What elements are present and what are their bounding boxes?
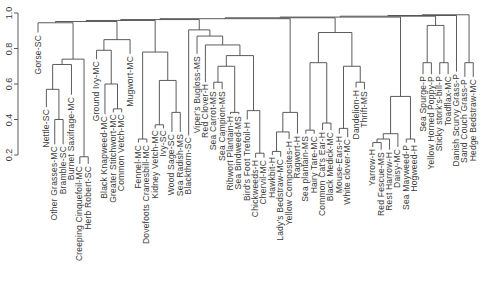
y-axis-tick-label: 0.2 (4, 144, 14, 166)
leaf-label: Herb Robert-SC (84, 166, 93, 286)
y-axis-tick-label: 0.6 (4, 73, 14, 95)
y-axis-tick-label: 1.0 (4, 2, 14, 24)
dendrogram-chart: 1.00.80.60.40.2 Gorse-SCNettle-SCOther G… (0, 0, 481, 300)
leaf-label: Hedge Bedstraw-MC (469, 79, 478, 199)
y-axis-tick-label: 0.8 (4, 38, 14, 60)
y-axis-tick-label: 0.4 (4, 109, 14, 131)
leaf-label: White clover-MC (343, 139, 352, 259)
leaf-label: Blackthorn-SC (184, 137, 193, 257)
leaf-label: Hogweed-H (410, 145, 419, 265)
leaf-label: Common Vetch-MC (117, 114, 126, 234)
